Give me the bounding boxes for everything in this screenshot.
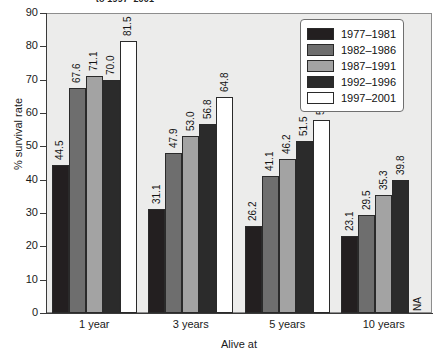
bar-value-label: 64.8: [218, 73, 229, 92]
y-axis-tick-label: 90: [4, 6, 38, 18]
y-axis-tick-label: 20: [4, 239, 38, 251]
legend-swatch: [307, 92, 334, 104]
legend-label: 1982–1986: [341, 44, 396, 56]
legend-row: 1987–1991: [307, 58, 396, 73]
legend: 1977–19811982–19861987–19911992–19961997…: [300, 19, 404, 112]
bar-value-label: 26.2: [247, 201, 258, 220]
y-axis-line: [46, 13, 47, 314]
bar: 56.8: [199, 124, 216, 313]
bar: 26.2: [245, 226, 262, 313]
bar-value-label: 67.6: [71, 63, 82, 82]
y-axis-tick: [40, 146, 46, 147]
y-axis-tick: [40, 313, 46, 314]
bar-value-label: 35.3: [377, 171, 388, 190]
bar: 51.5: [296, 141, 313, 313]
survival-rate-bar-chart: to 1997–2001 0102030405060708090 % survi…: [0, 0, 438, 356]
legend-row: 1997–2001: [307, 90, 396, 105]
legend-swatch: [307, 44, 334, 56]
bar: 53.0: [182, 136, 199, 313]
bar-group: 44.567.671.170.081.5: [52, 13, 137, 313]
y-axis-tick-label: 80: [4, 39, 38, 51]
legend-label: 1987–1991: [341, 60, 396, 72]
bar-value-label: 44.5: [54, 140, 65, 159]
x-axis-group-label: 3 years: [143, 318, 240, 330]
bar: 35.3: [375, 195, 392, 313]
y-axis-tick: [40, 246, 46, 247]
legend-label: 1992–1996: [341, 76, 396, 88]
bar-value-label: 39.8: [394, 156, 405, 175]
bar-value-label: 53.0: [184, 112, 195, 131]
y-axis-tick: [40, 280, 46, 281]
bar-value-label: 56.8: [201, 99, 212, 118]
bar: 29.5: [358, 215, 375, 313]
bar-value-label: 31.1: [150, 185, 161, 204]
bar-group: 31.147.953.056.864.8: [148, 13, 233, 313]
cropped-caption-fragment: to 1997–2001: [45, 0, 205, 4]
y-axis-tick: [40, 113, 46, 114]
bar-value-label: 29.5: [360, 190, 371, 209]
bar-na-label: NA: [411, 297, 422, 311]
y-axis-tick: [40, 213, 46, 214]
y-axis-tick-label: 0: [4, 306, 38, 318]
y-axis-tick-label: 10: [4, 273, 38, 285]
y-axis-tick: [40, 13, 46, 14]
bar-value-label: 47.9: [167, 129, 178, 148]
x-axis-group-label: 5 years: [239, 318, 336, 330]
legend-swatch: [307, 60, 334, 72]
bar: 67.6: [69, 88, 86, 313]
legend-swatch: [307, 76, 334, 88]
bar-value-label: 51.5: [298, 117, 309, 136]
bar: 39.8: [392, 180, 409, 313]
bar: 47.9: [165, 153, 182, 313]
x-axis-line: [46, 313, 433, 314]
bar-value-label: 71.1: [88, 52, 99, 71]
bar-value-label: 81.5: [122, 17, 133, 36]
legend-swatch: [307, 28, 334, 40]
x-axis-title: Alive at: [46, 338, 432, 350]
x-axis-group-label: 10 years: [336, 318, 433, 330]
legend-label: 1977–1981: [341, 28, 396, 40]
bar: 46.2: [279, 159, 296, 313]
bar: 31.1: [148, 209, 165, 313]
bar: 81.5: [120, 41, 137, 313]
bar: 58.0: [313, 120, 330, 313]
bar: 44.5: [52, 165, 69, 313]
y-axis-tick: [40, 46, 46, 47]
bar: 41.1: [262, 176, 279, 313]
bar: 70.0: [103, 80, 120, 313]
bar: 23.1: [341, 236, 358, 313]
bar-value-label: 46.2: [281, 135, 292, 154]
legend-row: 1992–1996: [307, 74, 396, 89]
y-axis-title: % survival rate: [12, 64, 24, 204]
y-axis-tick-label: 30: [4, 206, 38, 218]
bar-value-label: 41.1: [264, 152, 275, 171]
bar: 64.8: [216, 97, 233, 313]
bar: 71.1: [86, 76, 103, 313]
x-axis-group-label: 1 year: [46, 318, 143, 330]
bar-value-label: 23.1: [343, 212, 354, 231]
legend-row: 1977–1981: [307, 26, 396, 41]
bar-value-label: 70.0: [105, 55, 116, 74]
legend-row: 1982–1986: [307, 42, 396, 57]
legend-label: 1997–2001: [341, 92, 396, 104]
y-axis-tick: [40, 180, 46, 181]
y-axis-tick: [40, 80, 46, 81]
